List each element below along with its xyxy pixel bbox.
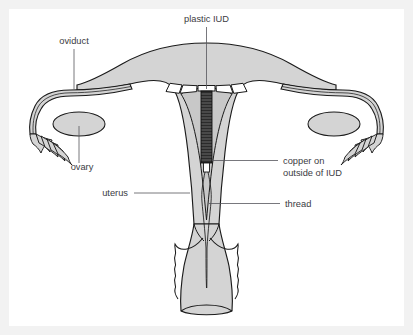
copper-label-line1: copper on	[283, 156, 324, 166]
label-copper: copper on outside of IUD	[212, 156, 342, 178]
label-thread: thread	[209, 199, 311, 209]
fimbriae-left	[30, 134, 72, 165]
page-root: plastic IUD oviduct ovary uterus copper …	[0, 0, 413, 335]
copper-label-line2: outside of IUD	[283, 168, 342, 178]
plastic-iud-label: plastic IUD	[184, 14, 229, 24]
iud-anatomy-diagram: plastic IUD oviduct ovary uterus copper …	[0, 0, 413, 335]
iud-arm-right	[216, 85, 233, 93]
fimbriae-right	[341, 134, 383, 165]
label-uterus: uterus	[102, 188, 190, 198]
iud-arm-right-outer	[231, 83, 247, 93]
oviduct-label: oviduct	[59, 36, 89, 46]
label-oviduct: oviduct	[59, 36, 89, 89]
iud-stem-tip	[204, 163, 210, 172]
iud-arm-left	[180, 85, 197, 93]
uterus-label: uterus	[102, 188, 128, 198]
iud-arm-left-outer	[166, 83, 182, 93]
ovary-label: ovary	[71, 162, 94, 172]
ovary-right	[308, 112, 360, 136]
thread-label: thread	[285, 199, 311, 209]
